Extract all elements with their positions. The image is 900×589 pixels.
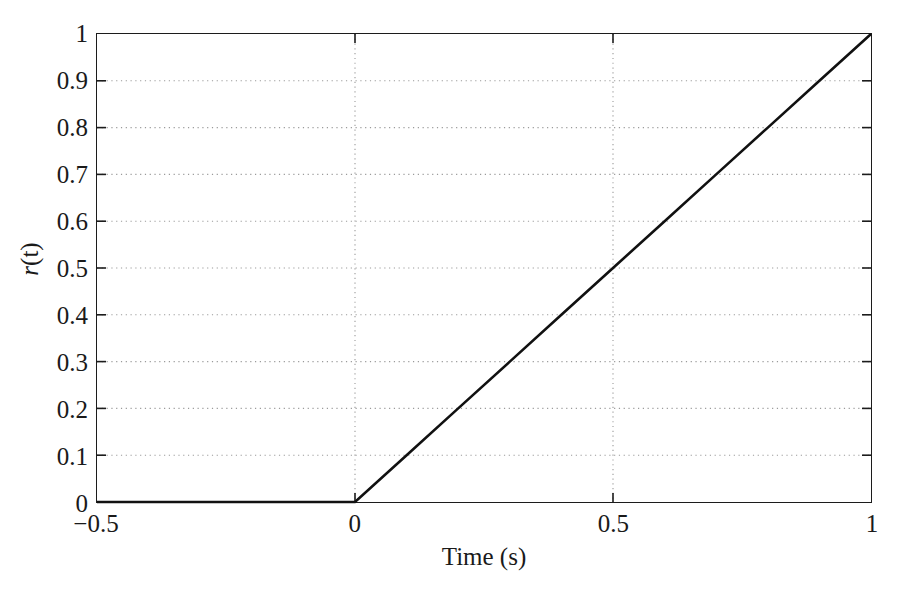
y-axis-title-variable: r bbox=[16, 266, 43, 276]
y-tick-label: 0.4 bbox=[57, 303, 88, 328]
data-series-layer bbox=[97, 34, 871, 502]
y-tick-label: 0.3 bbox=[57, 350, 88, 375]
y-axis-tick-labels: 00.10.20.30.40.50.60.70.80.91 bbox=[0, 33, 88, 503]
x-tick-label: 1 bbox=[866, 511, 879, 536]
y-axis-title-argument: (t) bbox=[16, 242, 43, 266]
x-tick-label: −0.5 bbox=[73, 511, 118, 536]
y-tick-label: 0.1 bbox=[57, 444, 88, 469]
y-tick-label: 0.8 bbox=[57, 115, 88, 140]
y-axis-title: r(t) bbox=[16, 209, 44, 309]
x-axis-title: Time (s) bbox=[96, 543, 872, 571]
figure-canvas: 00.10.20.30.40.50.60.70.80.91 −0.500.51 … bbox=[0, 0, 900, 589]
y-tick-label: 0.7 bbox=[57, 162, 88, 187]
y-tick-label: 1 bbox=[76, 21, 89, 46]
y-tick-label: 0.9 bbox=[57, 68, 88, 93]
plot-area bbox=[96, 33, 872, 503]
x-axis-tick-labels: −0.500.51 bbox=[96, 511, 872, 545]
y-tick-label: 0.2 bbox=[57, 397, 88, 422]
x-tick-label: 0 bbox=[348, 511, 361, 536]
y-tick-label: 0.5 bbox=[57, 256, 88, 281]
y-tick-label: 0.6 bbox=[57, 209, 88, 234]
data-line-ramp bbox=[97, 34, 871, 502]
x-tick-label: 0.5 bbox=[598, 511, 629, 536]
